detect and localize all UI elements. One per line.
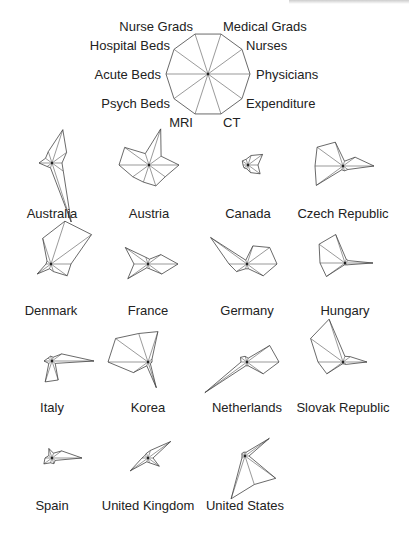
star-france: France xyxy=(125,248,178,319)
star-center-dot xyxy=(51,457,53,459)
spoke-nurse-grads xyxy=(48,152,52,163)
country-label: Germany xyxy=(220,303,274,318)
axis-label-psych-beds: Psych Beds xyxy=(101,96,170,111)
country-label: Spain xyxy=(35,498,68,513)
country-label: Denmark xyxy=(25,303,78,318)
star-denmark: Denmark xyxy=(25,221,92,318)
spoke-nurse-grads xyxy=(139,334,148,363)
star-united-states: United States xyxy=(206,438,285,513)
spoke-psych-beds xyxy=(130,458,148,471)
star-center-dot xyxy=(344,262,346,264)
country-label: United States xyxy=(206,498,285,513)
star-outline xyxy=(119,129,179,186)
spoke-nurses xyxy=(247,248,270,265)
spoke-hospital-beds xyxy=(311,339,343,363)
spoke-hospital-beds xyxy=(125,147,149,165)
star-spain: Spain xyxy=(35,449,82,514)
star-czech-republic: Czech Republic xyxy=(297,142,389,221)
star-outline xyxy=(108,332,158,388)
spoke-hospital-beds xyxy=(116,339,148,363)
key-spoke-expenditure xyxy=(208,74,242,99)
star-outline xyxy=(205,346,279,393)
star-outline xyxy=(44,354,94,382)
star-center-dot xyxy=(147,263,149,265)
spoke-mri xyxy=(143,165,149,182)
country-stars: AustraliaAustriaCanadaCzech RepublicDenm… xyxy=(25,129,390,513)
axis-label-physicians: Physicians xyxy=(256,67,319,82)
country-label: Czech Republic xyxy=(297,206,389,221)
key-spoke-hospital-beds xyxy=(174,49,208,74)
country-label: Korea xyxy=(131,400,166,415)
key-spoke-nurses xyxy=(208,49,242,74)
star-outline xyxy=(211,238,277,276)
star-canada: Canada xyxy=(225,154,271,221)
spoke-ct xyxy=(149,165,156,186)
country-label: Italy xyxy=(40,400,64,415)
star-center-dot xyxy=(147,457,149,459)
key-center-dot xyxy=(207,73,210,76)
spoke-expenditure xyxy=(51,264,67,276)
axis-label-hospital-beds: Hospital Beds xyxy=(90,38,171,53)
spoke-medical-grads xyxy=(247,246,253,264)
star-outline xyxy=(311,319,367,374)
star-korea: Korea xyxy=(108,332,166,415)
star-center-dot xyxy=(148,164,150,166)
country-label: Netherlands xyxy=(212,400,283,415)
spoke-medical-grads xyxy=(148,332,158,362)
spoke-expenditure xyxy=(52,163,63,171)
star-italy: Italy xyxy=(40,354,94,415)
spoke-nurse-grads xyxy=(335,142,343,166)
spoke-medical-grads xyxy=(51,221,65,264)
country-label: France xyxy=(128,303,168,318)
star-united-kingdom: United Kingdom xyxy=(102,442,195,514)
spoke-medical-grads xyxy=(149,129,161,165)
spoke-psych-beds xyxy=(133,362,148,373)
spoke-nurses xyxy=(51,235,92,264)
star-outline xyxy=(125,248,178,279)
axis-label-acute-beds: Acute Beds xyxy=(95,67,162,82)
spoke-nurses xyxy=(149,156,161,165)
spoke-expenditure xyxy=(247,362,263,374)
key-spoke-psych-beds xyxy=(174,74,208,99)
key-spoke-medical-grads xyxy=(208,34,221,74)
axis-label-nurses: Nurses xyxy=(246,38,288,53)
star-outline xyxy=(37,221,91,276)
key-spoke-nurse-grads xyxy=(195,34,208,74)
country-label: Hungary xyxy=(320,303,370,318)
spoke-expenditure xyxy=(149,165,165,177)
spoke-hospital-beds xyxy=(125,248,148,265)
axis-label-medical-grads: Medical Grads xyxy=(223,19,307,34)
spoke-medical-grads xyxy=(52,130,63,163)
star-slovak-republic: Slovak Republic xyxy=(296,319,390,415)
key-spoke-mri xyxy=(195,74,208,114)
spoke-nurse-grads xyxy=(329,319,343,362)
star-center-dot xyxy=(51,162,53,164)
spoke-psych-beds xyxy=(237,264,248,272)
star-outline xyxy=(315,142,374,185)
star-plot-chart: PhysiciansNursesMedical GradsNurse Grads… xyxy=(0,0,409,534)
axis-label-mri: MRI xyxy=(169,115,193,130)
star-center-dot xyxy=(50,263,52,265)
star-netherlands: Netherlands xyxy=(205,346,283,416)
country-label: Austria xyxy=(129,206,170,221)
country-label: Canada xyxy=(225,206,271,221)
axis-label-expenditure: Expenditure xyxy=(246,96,315,111)
spoke-ct xyxy=(245,456,254,485)
key-spoke-ct xyxy=(208,74,221,114)
axis-label-ct: CT xyxy=(223,115,240,130)
axis-label-nurse-grads: Nurse Grads xyxy=(119,19,193,34)
star-hungary: Hungary xyxy=(319,235,373,319)
star-outline xyxy=(319,235,373,277)
star-outline xyxy=(242,154,262,173)
star-center-dot xyxy=(244,455,246,457)
star-outline xyxy=(231,438,276,498)
star-center-dot xyxy=(342,361,344,363)
star-center-dot xyxy=(147,361,149,363)
star-center-dot xyxy=(247,164,249,166)
country-label: Australia xyxy=(27,206,78,221)
country-label: Slovak Republic xyxy=(296,400,390,415)
star-center-dot xyxy=(51,360,53,362)
axis-key-star: PhysiciansNursesMedical GradsNurse Grads… xyxy=(90,19,319,130)
spoke-expenditure xyxy=(247,264,263,276)
star-center-dot xyxy=(246,263,248,265)
